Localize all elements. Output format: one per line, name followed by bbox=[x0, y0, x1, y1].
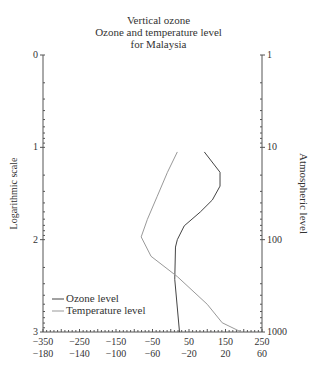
svg-text:−50: −50 bbox=[145, 336, 161, 347]
plot-area: 01231101001000−350−180−250−140−150−100−5… bbox=[0, 0, 317, 384]
chart: Vertical ozone Ozone and temperature lev… bbox=[0, 0, 317, 384]
svg-text:−250: −250 bbox=[69, 336, 90, 347]
svg-text:−20: −20 bbox=[181, 348, 197, 359]
svg-text:−140: −140 bbox=[69, 348, 90, 359]
svg-text:2: 2 bbox=[33, 234, 38, 245]
temperature-line bbox=[141, 152, 241, 332]
svg-text:−100: −100 bbox=[106, 348, 127, 359]
svg-text:Atmospheric level: Atmospheric level bbox=[298, 153, 310, 234]
svg-text:20: 20 bbox=[221, 348, 231, 359]
ozone-line bbox=[175, 152, 220, 332]
svg-text:1: 1 bbox=[267, 49, 272, 60]
svg-text:10: 10 bbox=[267, 141, 277, 152]
svg-text:Temperature level: Temperature level bbox=[66, 304, 146, 316]
svg-text:1: 1 bbox=[33, 141, 38, 152]
svg-text:Ozone level: Ozone level bbox=[66, 292, 119, 304]
svg-text:250: 250 bbox=[255, 336, 270, 347]
svg-text:100: 100 bbox=[267, 234, 282, 245]
svg-text:50: 50 bbox=[184, 336, 194, 347]
svg-text:−150: −150 bbox=[106, 336, 127, 347]
svg-text:60: 60 bbox=[257, 348, 267, 359]
svg-text:−60: −60 bbox=[145, 348, 161, 359]
svg-text:150: 150 bbox=[218, 336, 233, 347]
svg-text:0: 0 bbox=[33, 49, 38, 60]
svg-text:1000: 1000 bbox=[267, 326, 287, 337]
svg-text:−350: −350 bbox=[33, 336, 54, 347]
svg-text:Logarithmic scale: Logarithmic scale bbox=[8, 157, 19, 229]
svg-text:−180: −180 bbox=[33, 348, 54, 359]
